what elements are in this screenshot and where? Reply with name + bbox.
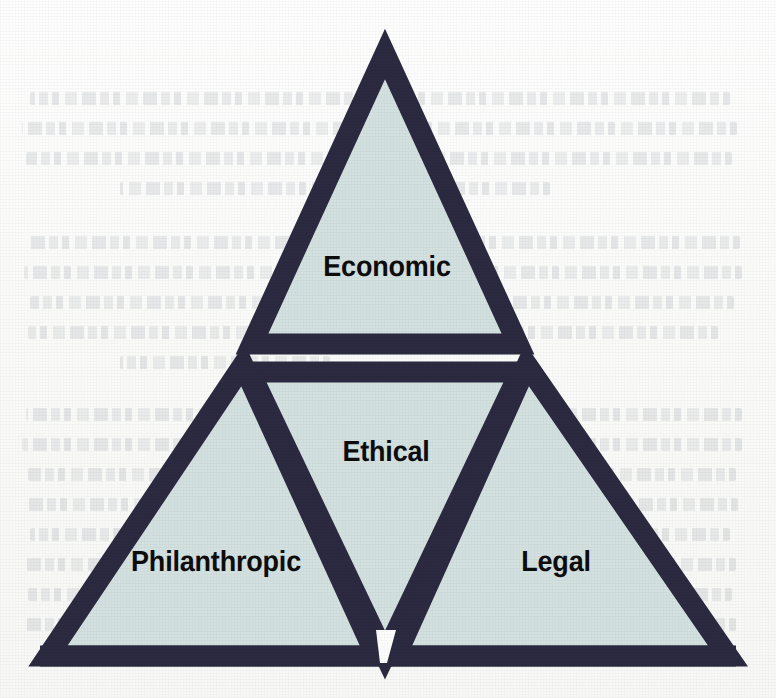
- segment-label-economic: Economic: [323, 251, 450, 284]
- segment-economic[interactable]: [252, 54, 518, 344]
- segment-label-philanthropic: Philanthropic: [131, 546, 301, 579]
- pyramid-svg: [0, 0, 776, 698]
- figure-page: Economic Ethical Philanthropic Legal: [0, 0, 776, 698]
- csr-pyramid: [0, 0, 776, 698]
- segment-label-ethical: Ethical: [342, 436, 429, 469]
- segment-label-legal: Legal: [521, 546, 591, 579]
